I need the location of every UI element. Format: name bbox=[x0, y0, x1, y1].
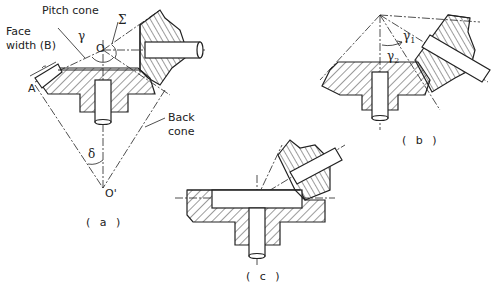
face-width-label-line2: width (B) bbox=[6, 39, 56, 52]
point-a-label: A bbox=[28, 82, 36, 95]
gamma2-label: γ2 bbox=[387, 50, 399, 67]
caption-c: ( c ) bbox=[246, 270, 283, 283]
gamma2-subscript: 2 bbox=[394, 56, 399, 65]
face-width-label-line1: Face bbox=[6, 25, 31, 38]
delta-label: δ bbox=[88, 148, 95, 161]
back-apex-label: O' bbox=[105, 187, 117, 200]
apex-o-label: O bbox=[96, 42, 105, 55]
caption-a: ( a ) bbox=[86, 216, 123, 229]
back-cone-label-line2: cone bbox=[168, 125, 195, 138]
gamma-label: γ bbox=[78, 30, 85, 43]
sigma-label: Σ bbox=[118, 14, 126, 27]
pitch-cone-label: Pitch cone bbox=[42, 4, 99, 17]
gamma1-label: γ1 bbox=[403, 30, 415, 47]
gamma1-subscript: 1 bbox=[410, 36, 415, 45]
subfigure-a bbox=[30, 10, 205, 190]
caption-b: ( b ) bbox=[402, 134, 440, 147]
back-cone-label-line1: Back bbox=[168, 111, 195, 124]
subfigure-c bbox=[175, 140, 345, 265]
